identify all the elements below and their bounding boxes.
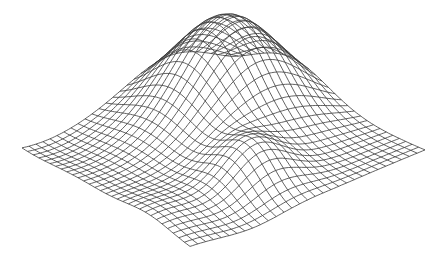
grid-line-v [117, 96, 341, 200]
grid-lines-v [22, 14, 425, 247]
grid-line-u [176, 14, 362, 176]
grid-line-u [204, 27, 394, 163]
grid-line-v [134, 116, 361, 206]
grid-line-u [218, 41, 409, 157]
grid-line-u [232, 53, 425, 150]
grid-line-v [145, 125, 373, 212]
grid-line-v [39, 35, 252, 158]
grid-line-u [120, 85, 300, 204]
wireframe-surface [0, 0, 447, 273]
surface-plot [0, 0, 447, 273]
grid-line-u [22, 148, 190, 247]
grid-lines-u [22, 14, 425, 246]
